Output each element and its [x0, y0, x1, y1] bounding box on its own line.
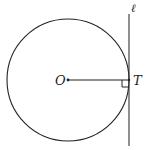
center-point — [67, 79, 70, 82]
label-center: O — [55, 73, 66, 88]
tangent-point — [128, 79, 130, 81]
right-angle-marker — [122, 80, 129, 87]
label-tangent-point: T — [133, 73, 143, 88]
label-tangent-line: ℓ — [131, 2, 136, 15]
tangent-diagram: O T ℓ — [0, 0, 145, 150]
